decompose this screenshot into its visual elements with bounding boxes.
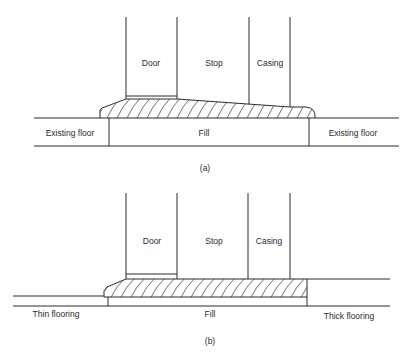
door-label: Door (143, 236, 162, 246)
threshold-diagram: Door Stop Casing Existing floor Fill Exi… (0, 0, 409, 358)
thick-flooring-label: Thick flooring (324, 311, 375, 321)
thin-flooring-label: Thin flooring (33, 309, 80, 319)
caption-a: (a) (200, 163, 211, 173)
door-label: Door (142, 58, 161, 68)
fill-label: Fill (199, 128, 210, 138)
existing-floor-left-label: Existing floor (46, 128, 95, 138)
figure-a: Door Stop Casing Existing floor Fill Exi… (34, 17, 399, 173)
caption-b: (b) (205, 336, 216, 346)
casing-label: Casing (257, 58, 284, 68)
casing-label: Casing (256, 236, 283, 246)
fill-label: Fill (205, 309, 216, 319)
threshold-hatch (100, 277, 316, 299)
threshold-hatch (96, 96, 322, 120)
figure-b: Door Stop Casing Thin flooring Fill Thic… (13, 193, 390, 346)
existing-floor-right-label: Existing floor (329, 128, 378, 138)
stop-label: Stop (205, 58, 223, 68)
stop-label: Stop (205, 236, 223, 246)
